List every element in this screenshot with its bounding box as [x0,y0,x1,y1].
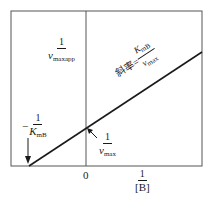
x-intercept-label: − 1 KmB [22,113,47,139]
y-intercept-label: 1 vmax [99,131,116,158]
x-axis-title: 1 [B] [135,168,150,193]
x-intercept-arrow [25,138,31,164]
plot-area [0,0,212,202]
y-axis-title: 1 vmaxapp [48,36,75,63]
origin-label: 0 [83,170,89,181]
y-intercept-arrow [87,128,97,138]
